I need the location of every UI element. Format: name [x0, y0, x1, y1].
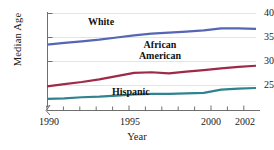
x-axis: [41, 105, 261, 116]
y-axis-title: Median Age: [12, 2, 23, 78]
series-label-hispanic: Hispanic: [112, 86, 150, 97]
y-axis-tick-label: 25: [254, 79, 274, 90]
y-axis-spine: [48, 12, 53, 107]
series-label-white: White: [88, 16, 114, 27]
x-axis-title: Year: [0, 131, 274, 142]
series-line-african-american: [47, 66, 256, 87]
series-label-african-american-line2: American: [128, 50, 192, 61]
x-axis-tick-label: 1990: [39, 116, 59, 127]
x-axis-tick-label: 2000: [201, 116, 221, 127]
series-label-african-american-line1: African: [128, 39, 192, 50]
x-axis-tick-label: 2002: [235, 116, 255, 127]
series-label-african-american: African American: [128, 39, 192, 61]
y-axis-tick-label: 30: [254, 55, 274, 66]
x-axis-tick-label: 1995: [120, 116, 140, 127]
y-axis-tick-label: 40: [254, 7, 274, 18]
y-axis-tick-label: 35: [254, 31, 274, 42]
series-line-hispanic: [47, 88, 256, 99]
median-age-line-chart: Median Age 40 35 30 25: [0, 0, 274, 150]
